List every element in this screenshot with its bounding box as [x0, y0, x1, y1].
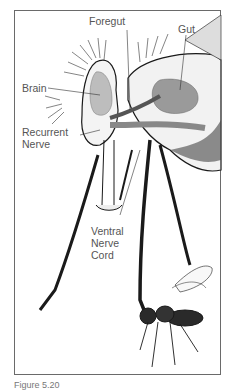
label-ventral-nerve-cord-line1: Ventral [91, 226, 124, 238]
label-recurrent-nerve-line1: Recurrent [22, 127, 68, 139]
label-ventral-nerve-cord-line2: Nerve [91, 238, 119, 250]
figure-caption: Figure 5.20 [14, 380, 60, 390]
label-brain: Brain [22, 83, 47, 95]
label-recurrent-nerve-line2: Nerve [22, 139, 50, 151]
label-gut: Gut [178, 24, 195, 36]
small-fly [140, 266, 212, 367]
label-ventral-nerve-cord-line3: Cord [91, 250, 114, 262]
label-foregut: Foregut [89, 16, 125, 28]
proboscis [102, 140, 114, 205]
